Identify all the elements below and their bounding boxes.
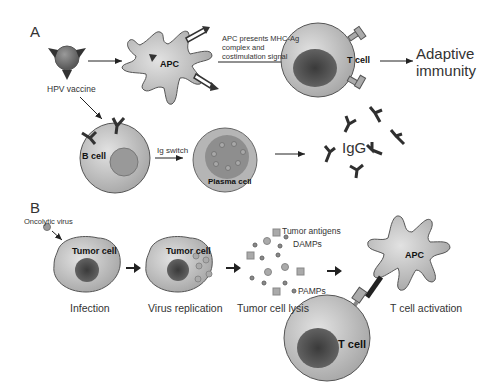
step-infection: Infection: [70, 303, 110, 315]
t-cell-label-a: T cell: [347, 56, 370, 66]
arrow-step-2: [226, 263, 241, 273]
arrow-step-3: [327, 266, 342, 276]
apc-label-b: APC: [405, 251, 424, 261]
tumor-cell-label-1: Tumor cell: [72, 247, 117, 257]
ig-switch-label: Ig switch: [157, 147, 188, 156]
step-virus-replication: Virus replication: [148, 303, 223, 315]
oncolytic-virus-label: Oncolytic virus: [24, 218, 73, 226]
adaptive-label-2: immunity: [416, 63, 476, 80]
t-cell-label-b: T cell: [338, 338, 366, 350]
apc-presents-line-2: complex and: [222, 44, 265, 52]
igg-label: IgG: [342, 140, 366, 157]
panel-a-label: A: [30, 24, 40, 41]
apc-presents-line-1: APC presents MHC-Ag: [222, 35, 299, 43]
plasma-cell-label: Plasma cell: [208, 178, 252, 187]
hpv-vaccine-label: HPV vaccine: [47, 85, 96, 94]
panel-b-label: B: [30, 200, 40, 217]
step-t-cell-activation: T cell activation: [390, 303, 462, 315]
step-tumor-cell-lysis: Tumor cell lysis: [237, 303, 309, 315]
legend-tumor-antigens: Tumor antigens: [282, 227, 341, 236]
legend-pamps: PAMPs: [298, 287, 326, 296]
hpv-vaccine-icon: [48, 46, 86, 80]
arrow-vaccine-to-bcell: [80, 97, 102, 119]
legend-damps: DAMPs: [293, 240, 322, 249]
apc-label-a: APC: [160, 60, 179, 70]
arrow-virus-to-tumor: [52, 231, 62, 240]
b-cell-label: B cell: [82, 152, 106, 162]
tumor-cell-infection: [54, 237, 120, 293]
adaptive-label-1: Adaptive: [416, 46, 474, 63]
tumor-cell-replication: [146, 237, 212, 293]
tumor-cell-label-2: Tumor cell: [166, 247, 211, 257]
apc-presents-line-3: costimulation signal: [222, 53, 287, 61]
arrow-step-1: [126, 263, 141, 273]
